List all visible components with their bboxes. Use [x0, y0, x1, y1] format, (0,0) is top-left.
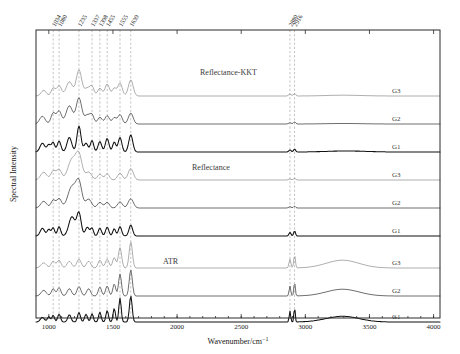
- x-tick-label-1500: 1500: [106, 323, 121, 331]
- group-label-reflectance: Reflectance: [192, 163, 230, 172]
- spectrum-reflectance-kkt-g1: [36, 126, 440, 152]
- spectrum-atr-g2: [36, 270, 440, 296]
- series-label-1: G2: [392, 115, 401, 123]
- spectrum-reflectance-g1: [36, 212, 440, 236]
- series-label-8: G1: [392, 313, 401, 321]
- spectra-figure: 1000150020002500300035004000 10341080123…: [0, 0, 460, 354]
- x-tick-label-2000: 2000: [170, 323, 185, 331]
- x-tick-label-1000: 1000: [42, 323, 57, 331]
- spectrum-reflectance-g2: [36, 178, 440, 208]
- series-label-5: G1: [392, 227, 401, 235]
- band-position-labels: 1034108012351337139814551555163928802916: [50, 13, 304, 27]
- group-label-reflectance-kkt: Reflectance-KKT: [200, 68, 257, 77]
- spectrum-atr-g3: [36, 242, 440, 268]
- x-tick-label-2500: 2500: [234, 323, 249, 331]
- series-label-0: G3: [392, 87, 401, 95]
- x-tick-label-4000: 4000: [427, 323, 442, 331]
- spectrum-reflectance-g3: [36, 151, 440, 180]
- series-label-2: G1: [392, 143, 401, 151]
- marker-gridlines: [53, 30, 294, 318]
- x-tick-label-3000: 3000: [298, 323, 313, 331]
- series-labels: G3G2G1G3G2G1G3G2G1: [392, 87, 401, 321]
- band-label-1639: 1639: [128, 13, 140, 27]
- x-tick-label-3500: 3500: [362, 323, 377, 331]
- spectra-chart: 1000150020002500300035004000 10341080123…: [0, 0, 460, 354]
- group-label-atr: ATR: [163, 257, 179, 266]
- x-axis-title: Wavenumber/cm−1: [208, 336, 269, 346]
- series-label-7: G2: [392, 287, 401, 295]
- series-label-6: G3: [392, 259, 401, 267]
- y-axis-title: Spectral Intensity: [9, 146, 18, 202]
- spectrum-reflectance-kkt-g2: [36, 98, 440, 124]
- spectra-traces: [36, 70, 440, 322]
- series-label-4: G2: [392, 199, 401, 207]
- band-label-1555: 1555: [117, 13, 129, 27]
- band-label-1235: 1235: [76, 13, 88, 27]
- series-label-3: G3: [392, 171, 401, 179]
